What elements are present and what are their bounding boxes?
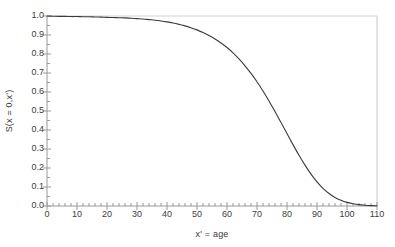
x-axis-tick-label: 20 — [93, 210, 121, 219]
x-axis-tick-label: 50 — [183, 210, 211, 219]
y-axis-tick-label: 1.0 — [18, 11, 44, 20]
y-axis-tick-label: 0.9 — [18, 30, 44, 39]
x-axis-tick-label: 30 — [123, 210, 151, 219]
chart-figure: S(x = 0,x') 0.00.10.20.30.40.50.60.70.80… — [0, 0, 395, 247]
y-axis-label: S(x = 0,x') — [4, 90, 14, 133]
x-axis-tick-label: 10 — [63, 210, 91, 219]
x-axis-tick-label: 80 — [273, 210, 301, 219]
y-axis-tick-label: 0.4 — [18, 125, 44, 134]
y-axis-tick-label: 0.0 — [18, 201, 44, 210]
x-axis-label: x' = age — [47, 229, 377, 239]
x-axis-tick-label: 0 — [33, 210, 61, 219]
y-axis-tick-label: 0.5 — [18, 106, 44, 115]
y-axis-tick-label: 0.7 — [18, 68, 44, 77]
x-axis-tick-label: 60 — [213, 210, 241, 219]
y-axis-tick-label: 0.1 — [18, 182, 44, 191]
y-axis-tick-label: 0.8 — [18, 49, 44, 58]
x-axis-tick-label: 110 — [363, 210, 391, 219]
y-axis-tick-label: 0.6 — [18, 87, 44, 96]
y-axis-tick-label: 0.3 — [18, 144, 44, 153]
x-axis-tick-label: 70 — [243, 210, 271, 219]
x-axis-tick-label: 100 — [333, 210, 361, 219]
x-axis-tick-label: 40 — [153, 210, 181, 219]
x-axis-tick-label: 90 — [303, 210, 331, 219]
y-axis-tick-label: 0.2 — [18, 163, 44, 172]
